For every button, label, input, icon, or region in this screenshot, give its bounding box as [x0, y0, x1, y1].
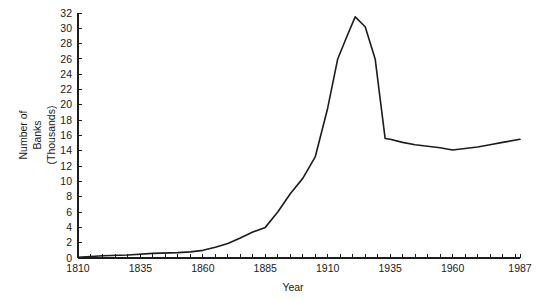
x-tick-label-1860: 1860 [191, 262, 215, 274]
y-tick-label-14: 14 [60, 144, 72, 156]
y-tick-label-2: 2 [66, 236, 72, 248]
y-tick-label-18: 18 [60, 114, 72, 126]
y-tick-label-4: 4 [66, 221, 72, 233]
y-tick-label-32: 32 [60, 7, 72, 19]
y-axis-title-group: Number of Banks (Thousands) [17, 106, 57, 165]
y-tick-label-26: 26 [60, 53, 72, 65]
y-tick-label-20: 20 [60, 98, 72, 110]
y-axis-title-line-1: Number of [17, 110, 29, 159]
x-tick-label-1935: 1935 [378, 262, 402, 274]
y-tick-label-24: 24 [60, 68, 72, 80]
y-axis-title-line-2: Banks [31, 120, 43, 149]
x-tick-label-1885: 1885 [254, 262, 278, 274]
x-tick-label-1960: 1960 [441, 262, 465, 274]
series-group [78, 17, 520, 257]
y-axis-group: 02468101214161820222426283032 [60, 7, 82, 264]
x-tick-label-1835: 1835 [129, 262, 153, 274]
x-axis-title: Year [282, 281, 304, 293]
y-tick-label-6: 6 [66, 206, 72, 218]
y-tick-label-22: 22 [60, 83, 72, 95]
y-axis-tick-labels: 02468101214161820222426283032 [60, 7, 72, 264]
x-axis-tick-labels: 18101835186018851910193519601987 [66, 262, 532, 274]
x-tick-label-1987: 1987 [508, 262, 532, 274]
y-tick-label-8: 8 [66, 190, 72, 202]
x-axis-group: 18101835186018851910193519601987 [66, 254, 532, 274]
x-tick-label-1910: 1910 [316, 262, 340, 274]
y-tick-label-28: 28 [60, 37, 72, 49]
y-tick-label-30: 30 [60, 22, 72, 34]
y-tick-label-10: 10 [60, 175, 72, 187]
x-tick-label-1810: 1810 [66, 262, 90, 274]
data-line-number-of-banks [78, 17, 520, 257]
y-axis-tick-marks [78, 13, 82, 258]
y-axis-title-line-3: (Thousands) [45, 106, 57, 165]
bank-count-line-chart-figure: 02468101214161820222426283032 1810183518… [0, 0, 540, 299]
y-tick-label-12: 12 [60, 160, 72, 172]
y-tick-label-16: 16 [60, 129, 72, 141]
x-axis-title-group: Year [282, 281, 304, 293]
chart-canvas: 02468101214161820222426283032 1810183518… [0, 0, 540, 299]
